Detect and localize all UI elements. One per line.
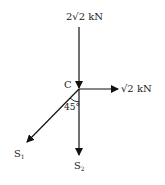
s1-label: S1 [14,149,25,160]
point-label: C [64,80,72,90]
angle-label: 45° [64,103,80,112]
right-force-label: √2 kN [121,84,152,94]
top-force-label: 2√2 kN [66,12,103,22]
s1-arrow [27,89,79,142]
s2-label: S2 [74,161,85,172]
